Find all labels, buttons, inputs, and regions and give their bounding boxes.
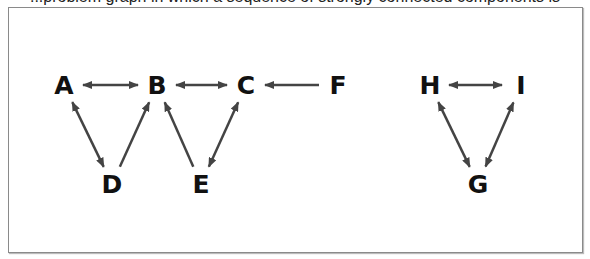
node-A: A: [54, 71, 74, 100]
edge-A-D: [72, 102, 103, 167]
node-B: B: [147, 71, 166, 100]
node-E: E: [192, 170, 209, 199]
graph-diagram: ABCFDEHIG: [0, 0, 590, 259]
edges: [72, 85, 513, 167]
node-G: G: [468, 170, 489, 199]
edge-D-B: [120, 102, 149, 166]
node-D: D: [102, 170, 123, 199]
node-H: H: [420, 71, 441, 100]
edge-I-G: [486, 102, 514, 166]
edge-E-B: [165, 102, 194, 166]
node-C: C: [237, 71, 255, 100]
node-F: F: [329, 71, 346, 100]
node-I: I: [516, 71, 525, 100]
edge-C-E: [209, 102, 238, 166]
edge-H-G: [438, 102, 469, 167]
